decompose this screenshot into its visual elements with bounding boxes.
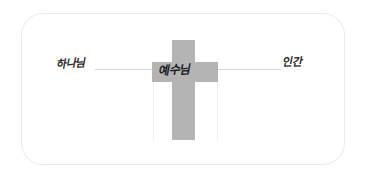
label-human: 인간 [282,57,302,69]
label-god: 하나님 [56,57,85,69]
guide-line-right [217,82,218,140]
label-jesus: 예수님 [158,63,190,77]
cross-mediator-diagram: 하나님 예수님 인간 [0,0,367,178]
cross-vertical-post-icon [172,40,195,140]
guide-line-left [153,82,154,140]
screenshot-root: 하나님 예수님 인간 [0,0,367,178]
